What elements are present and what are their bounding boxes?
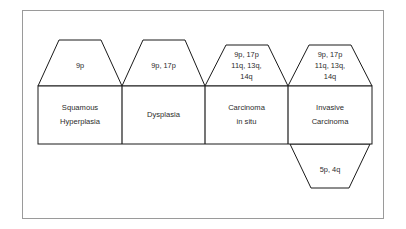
alteration-text-invasive-carcinoma-line2: 11q, 13q, (315, 61, 345, 70)
alteration-text-carcinoma-in-situ-line1: 9p, 17p (234, 50, 259, 59)
stage-name-squamous-hyperplasia-line1: Squamous (62, 103, 99, 112)
alteration-text-squamous-hyperplasia: 9p (76, 61, 84, 70)
stage-name-carcinoma-in-situ-line2: in situ (237, 117, 257, 126)
stage-name-carcinoma-in-situ-line1: Carcinoma (228, 103, 265, 112)
progression-diagram: 9p 9p, 17p 9p, 17p 11q, 13q, 14q 9p, 17p… (0, 0, 406, 229)
stage-name-invasive-carcinoma-line2: Carcinoma (312, 117, 349, 126)
alteration-text-carcinoma-in-situ-line2: 11q, 13q, (231, 61, 261, 70)
alteration-text-invasive-carcinoma-line3: 14q (324, 72, 336, 81)
alteration-text-invasive-carcinoma-line1: 9p, 17p (318, 50, 343, 59)
figure-root: 9p 9p, 17p 9p, 17p 11q, 13q, 14q 9p, 17p… (0, 0, 406, 229)
stage-name-squamous-hyperplasia-line2: Hyperplasia (60, 117, 101, 126)
stage-name-invasive-carcinoma-line1: Invasive (316, 103, 344, 112)
stage-name-dysplasia-line1: Dysplasia (147, 110, 181, 119)
alteration-text-lower-invasive-carcinoma: 5p, 4q (320, 165, 341, 174)
alteration-text-dysplasia: 9p, 17p (151, 61, 176, 70)
alteration-text-carcinoma-in-situ-line3: 14q (240, 72, 252, 81)
